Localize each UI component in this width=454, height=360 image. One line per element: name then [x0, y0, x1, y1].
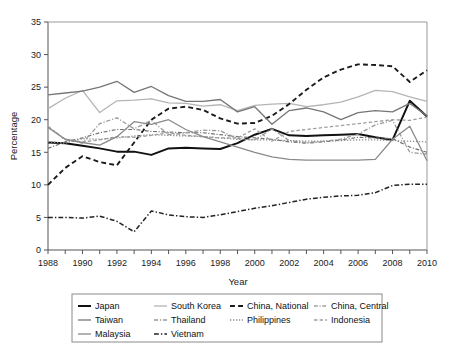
x-tick-label: 1996: [176, 258, 196, 268]
legend-label-vietnam[interactable]: Vietnam: [171, 329, 204, 339]
legend-label-south-korea[interactable]: South Korea: [171, 301, 221, 311]
x-tick-label: 2006: [348, 258, 368, 268]
x-tick-label: 2010: [417, 258, 437, 268]
legend-label-philippines[interactable]: Philippines: [247, 315, 291, 325]
legend-label-japan[interactable]: Japan: [95, 301, 120, 311]
y-tick-label: 5: [36, 213, 41, 223]
legend: JapanSouth KoreaChina, NationalChina, Ce…: [72, 294, 389, 342]
x-tick-label: 1998: [210, 258, 230, 268]
legend-label-thailand[interactable]: Thailand: [171, 315, 206, 325]
x-tick-label: 1988: [38, 258, 58, 268]
line-chart: 05101520253035 1988199019921994199619982…: [0, 0, 454, 360]
x-tick-label: 2000: [245, 258, 265, 268]
legend-label-china-central[interactable]: China, Central: [331, 301, 389, 311]
y-tick-label: 15: [31, 148, 41, 158]
legend-label-malaysia[interactable]: Malaysia: [95, 329, 131, 339]
legend-label-china-national[interactable]: China, National: [247, 301, 309, 311]
chart-figure: 05101520253035 1988199019921994199619982…: [0, 0, 454, 360]
x-tick-label: 2008: [383, 258, 403, 268]
legend-label-taiwan[interactable]: Taiwan: [95, 315, 123, 325]
x-tick-label: 1990: [72, 258, 92, 268]
x-axis-title: Year: [228, 276, 247, 287]
x-tick-label: 1994: [141, 258, 161, 268]
x-tick-label: 2002: [279, 258, 299, 268]
y-tick-label: 10: [31, 180, 41, 190]
x-tick-label: 1992: [107, 258, 127, 268]
legend-label-indonesia[interactable]: Indonesia: [331, 315, 370, 325]
y-tick-label: 25: [31, 82, 41, 92]
y-axis-title: Percentage: [8, 112, 19, 161]
y-tick-label: 20: [31, 115, 41, 125]
y-tick-label: 30: [31, 50, 41, 60]
y-tick-label: 35: [31, 17, 41, 27]
y-tick-label: 0: [36, 245, 41, 255]
x-tick-label: 2004: [314, 258, 334, 268]
